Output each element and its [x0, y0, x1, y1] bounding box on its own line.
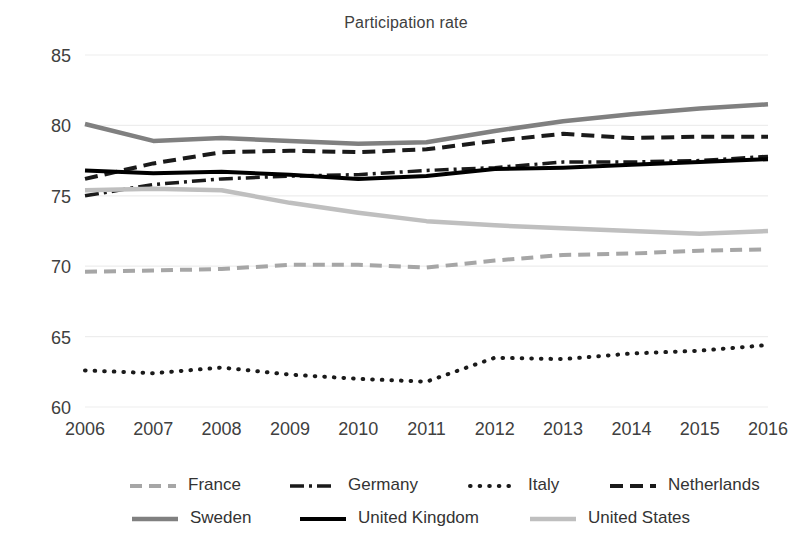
series-group — [85, 104, 768, 381]
legend-item-germany[interactable]: Germany — [290, 475, 418, 494]
legend-label: France — [188, 475, 241, 494]
legend-item-united-states[interactable]: United States — [530, 508, 690, 527]
legend-item-united-kingdom[interactable]: United Kingdom — [300, 508, 479, 527]
y-axis-labels: 606570758085 — [51, 46, 71, 418]
chart-canvas: 6065707580852006200720082009201020112012… — [0, 0, 812, 555]
x-axis-tick-label: 2008 — [202, 419, 242, 439]
x-axis-tick-label: 2006 — [65, 419, 105, 439]
y-axis-tick-label: 65 — [51, 328, 71, 348]
x-axis-tick-label: 2007 — [133, 419, 173, 439]
y-axis-tick-label: 60 — [51, 398, 71, 418]
y-axis-tick-label: 75 — [51, 187, 71, 207]
x-axis-tick-label: 2010 — [338, 419, 378, 439]
y-axis-tick-label: 70 — [51, 257, 71, 277]
legend-item-france[interactable]: France — [130, 475, 241, 494]
y-axis-tick-label: 80 — [51, 116, 71, 136]
legend-label: United States — [588, 508, 690, 527]
x-axis-tick-label: 2009 — [270, 419, 310, 439]
x-axis-tick-label: 2011 — [407, 419, 446, 439]
x-axis-tick-label: 2013 — [543, 419, 583, 439]
legend-label: Italy — [528, 475, 560, 494]
legend-label: Netherlands — [668, 475, 760, 494]
series-line-united-kingdom — [85, 159, 768, 179]
x-axis-tick-label: 2014 — [611, 419, 651, 439]
x-axis-tick-label: 2016 — [748, 419, 788, 439]
legend-label: Germany — [348, 475, 418, 494]
legend-item-italy[interactable]: Italy — [470, 475, 560, 494]
legend-item-sweden[interactable]: Sweden — [132, 508, 251, 527]
y-axis-tick-label: 85 — [51, 46, 71, 66]
chart-container: Participation rate 606570758085200620072… — [0, 0, 812, 555]
legend-item-netherlands[interactable]: Netherlands — [610, 475, 760, 494]
legend-label: United Kingdom — [358, 508, 479, 527]
series-line-italy — [85, 345, 768, 382]
x-axis-tick-label: 2015 — [680, 419, 720, 439]
legend: FranceGermanyItalyNetherlandsSwedenUnite… — [130, 475, 760, 527]
x-axis-labels: 2006200720082009201020112012201320142015… — [65, 419, 788, 439]
x-axis-tick-label: 2012 — [475, 419, 515, 439]
legend-label: Sweden — [190, 508, 251, 527]
series-line-france — [85, 249, 768, 272]
